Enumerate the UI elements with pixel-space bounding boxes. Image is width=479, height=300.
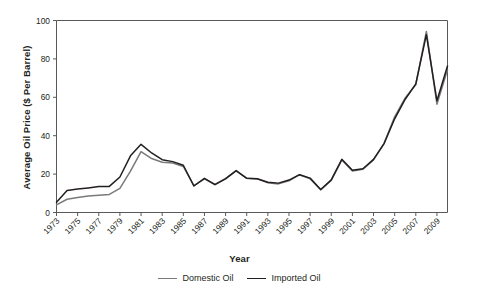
svg-text:1991: 1991 bbox=[231, 216, 251, 236]
svg-text:2007: 2007 bbox=[400, 216, 420, 236]
y-axis-title: Average Oil Price ($ Per Barrel) bbox=[21, 18, 32, 218]
svg-text:2001: 2001 bbox=[337, 216, 357, 236]
svg-text:40: 40 bbox=[41, 131, 51, 141]
svg-text:1989: 1989 bbox=[210, 216, 230, 236]
legend-item-domestic-oil: Domestic Oil bbox=[158, 273, 233, 283]
svg-text:1973: 1973 bbox=[41, 216, 61, 236]
svg-text:80: 80 bbox=[41, 54, 51, 64]
legend-item-imported-oil: Imported Oil bbox=[247, 273, 320, 283]
svg-text:1985: 1985 bbox=[168, 216, 188, 236]
svg-text:1993: 1993 bbox=[253, 216, 273, 236]
svg-text:1995: 1995 bbox=[274, 216, 294, 236]
legend-label-imported-oil: Imported Oil bbox=[271, 273, 320, 283]
svg-text:1983: 1983 bbox=[147, 216, 167, 236]
x-axis-ticks: 1973197519771979198119831985198719891991… bbox=[41, 213, 442, 237]
svg-text:1999: 1999 bbox=[316, 216, 336, 236]
svg-text:1975: 1975 bbox=[62, 216, 82, 236]
svg-text:1987: 1987 bbox=[189, 216, 209, 236]
svg-text:2003: 2003 bbox=[358, 216, 378, 236]
svg-text:20: 20 bbox=[41, 169, 51, 179]
svg-text:60: 60 bbox=[41, 92, 51, 102]
svg-text:0: 0 bbox=[45, 208, 50, 218]
svg-text:1979: 1979 bbox=[105, 216, 125, 236]
svg-text:1997: 1997 bbox=[295, 216, 315, 236]
legend-swatch-domestic-oil bbox=[158, 278, 177, 279]
plot-frame bbox=[57, 21, 448, 213]
x-axis-title: Year bbox=[0, 253, 479, 264]
svg-text:1981: 1981 bbox=[126, 216, 146, 236]
legend-label-domestic-oil: Domestic Oil bbox=[182, 273, 233, 283]
svg-text:2009: 2009 bbox=[422, 216, 442, 236]
svg-text:100: 100 bbox=[36, 16, 50, 26]
y-axis-ticks: 020406080100 bbox=[36, 16, 56, 218]
svg-text:1977: 1977 bbox=[83, 216, 103, 236]
oil-price-chart-figure: 020406080100 197319751977197919811983198… bbox=[0, 0, 479, 300]
legend-swatch-imported-oil bbox=[247, 278, 266, 279]
svg-text:2005: 2005 bbox=[379, 216, 399, 236]
data-series-group bbox=[57, 31, 448, 204]
chart-legend: Domestic Oil Imported Oil bbox=[0, 273, 479, 283]
